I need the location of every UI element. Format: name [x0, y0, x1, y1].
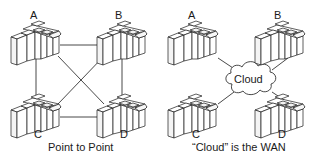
- cloud-label: Cloud: [234, 73, 263, 85]
- left-node-c-label: C: [34, 128, 42, 140]
- left-node-d-label: D: [120, 128, 128, 140]
- diagram-canvas: [0, 0, 318, 161]
- link-c-cloud: [218, 92, 234, 104]
- right-node-d-label: D: [278, 128, 286, 140]
- left-node-b-icon: [97, 21, 147, 65]
- right-node-b-label: B: [274, 9, 281, 21]
- left-node-b-label: B: [115, 9, 122, 21]
- left-node-a-label: A: [30, 9, 37, 21]
- right-node-a-icon: [168, 21, 218, 65]
- left-caption: Point to Point: [48, 141, 113, 153]
- right-node-a-label: A: [188, 9, 195, 21]
- right-node-c-label: C: [192, 128, 200, 140]
- right-caption: “Cloud” is the WAN: [192, 141, 286, 153]
- right-node-b-icon: [255, 21, 305, 65]
- left-node-a-icon: [11, 21, 61, 65]
